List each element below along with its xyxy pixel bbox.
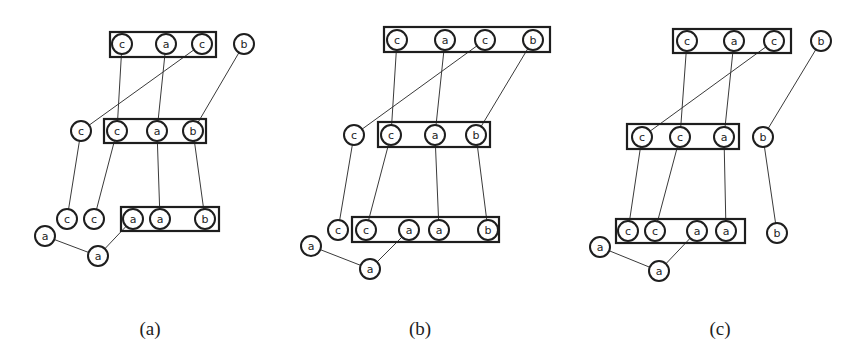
node-c: c <box>57 209 77 229</box>
figure-canvas: cacbccabccaabaa(a)cacbccabccaabaa(b)cacb… <box>0 0 858 360</box>
edge <box>391 40 397 135</box>
edge <box>193 131 205 219</box>
node-label: b <box>530 34 537 47</box>
node-label: c <box>78 125 84 138</box>
node-a: a <box>360 259 380 279</box>
node-a: a <box>716 221 736 241</box>
node-c: c <box>112 34 132 54</box>
node-label: b <box>485 224 492 237</box>
node-label: c <box>677 131 683 144</box>
edge <box>435 135 439 230</box>
edge <box>476 135 488 230</box>
node-a: a <box>35 226 55 246</box>
edge <box>642 41 774 137</box>
node-label: c <box>119 38 125 51</box>
node-label: a <box>130 213 137 226</box>
node-c: c <box>645 221 665 241</box>
node-a: a <box>435 30 455 50</box>
node-label: b <box>202 213 209 226</box>
node-label: a <box>406 224 413 237</box>
node-c: c <box>387 30 407 50</box>
node-c: c <box>632 127 652 147</box>
node-c: c <box>356 220 376 240</box>
node-c: c <box>344 125 364 145</box>
edge <box>435 40 445 135</box>
node-label: b <box>473 129 480 142</box>
node-b: b <box>466 125 486 145</box>
node-c: c <box>328 220 348 240</box>
node-c: c <box>670 127 690 147</box>
edge <box>628 137 642 231</box>
figure-panels: cacbccabccaabaa(a)cacbccabccaabaa(b)cacb… <box>35 27 831 340</box>
node-b: b <box>767 223 787 243</box>
node-label: a <box>154 125 161 138</box>
node-b: b <box>195 209 215 229</box>
node-c: c <box>764 31 784 51</box>
node-label: c <box>771 35 777 48</box>
edge <box>763 41 821 137</box>
node-label: c <box>388 129 394 142</box>
node-label: a <box>163 38 170 51</box>
panel-a: cacbccabccaabaa(a) <box>35 32 254 340</box>
node-c: c <box>71 121 91 141</box>
node-label: c <box>114 125 120 138</box>
panel-caption: (b) <box>409 318 431 340</box>
node-b: b <box>478 220 498 240</box>
node-a: a <box>425 125 445 145</box>
edge <box>67 131 81 219</box>
edge <box>476 40 533 135</box>
node-label: c <box>91 213 97 226</box>
node-a: a <box>649 261 669 281</box>
node-label: a <box>723 225 730 238</box>
node-c: c <box>84 209 104 229</box>
node-a: a <box>714 127 734 147</box>
node-b: b <box>811 31 831 51</box>
node-a: a <box>150 209 170 229</box>
node-label: a <box>731 35 738 48</box>
node-b: b <box>523 30 543 50</box>
node-label: a <box>694 225 701 238</box>
edge <box>366 135 391 230</box>
node-c: c <box>192 34 212 54</box>
node-c: c <box>618 221 638 241</box>
node-a: a <box>399 220 419 240</box>
node-c: c <box>475 30 495 50</box>
node-label: c <box>652 225 658 238</box>
node-label: a <box>157 213 164 226</box>
edge <box>724 137 726 231</box>
node-b: b <box>753 127 773 147</box>
node-label: b <box>190 125 197 138</box>
node-a: a <box>147 121 167 141</box>
edge <box>655 137 680 231</box>
panel-b: cacbccabccaabaa(b) <box>301 27 550 340</box>
edge <box>94 131 117 219</box>
edge <box>354 40 485 135</box>
node-label: c <box>64 213 70 226</box>
node-label: c <box>684 35 690 48</box>
edge <box>157 131 160 219</box>
node-label: c <box>199 38 205 51</box>
node-label: a <box>656 265 663 278</box>
node-a: a <box>88 246 108 266</box>
node-label: b <box>818 35 825 48</box>
node-label: a <box>432 129 439 142</box>
node-label: a <box>367 263 374 276</box>
node-a: a <box>687 221 707 241</box>
panel-caption: (a) <box>139 318 160 340</box>
panel-c: cacbccabccaabaa(c) <box>590 29 831 340</box>
panel-caption: (c) <box>709 318 730 340</box>
node-c: c <box>107 121 127 141</box>
node-label: c <box>639 131 645 144</box>
node-label: a <box>308 240 315 253</box>
edge <box>338 135 354 230</box>
node-label: a <box>597 241 604 254</box>
node-b: b <box>183 121 203 141</box>
node-label: b <box>241 38 248 51</box>
node-a: a <box>429 220 449 240</box>
node-label: a <box>42 230 49 243</box>
node-b: b <box>234 34 254 54</box>
node-c: c <box>677 31 697 51</box>
node-a: a <box>123 209 143 229</box>
node-label: a <box>442 34 449 47</box>
node-label: b <box>760 131 767 144</box>
